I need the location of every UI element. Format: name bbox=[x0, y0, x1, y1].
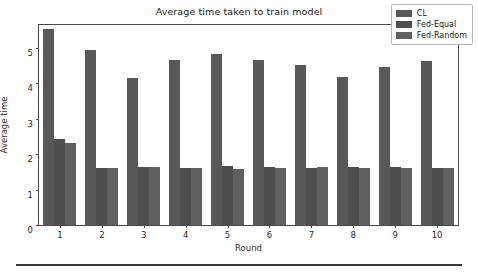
bar-group bbox=[253, 25, 286, 225]
y-tick-mark bbox=[36, 119, 39, 120]
legend-label: Fed-Random bbox=[417, 31, 467, 40]
bar bbox=[222, 166, 233, 225]
bar bbox=[348, 167, 359, 225]
bar bbox=[390, 167, 401, 225]
y-tick-mark bbox=[36, 190, 39, 191]
legend-label: CL bbox=[417, 9, 427, 18]
bar bbox=[264, 167, 275, 225]
legend-item: Fed-Random bbox=[396, 30, 467, 41]
y-tick-label: 1 bbox=[28, 190, 39, 200]
legend-swatch-icon bbox=[396, 21, 412, 28]
bar bbox=[127, 78, 138, 225]
legend-swatch-icon bbox=[396, 32, 412, 39]
y-tick-mark bbox=[36, 154, 39, 155]
bar bbox=[432, 168, 443, 225]
bar bbox=[359, 168, 370, 225]
bar bbox=[191, 168, 202, 225]
legend-item: CL bbox=[396, 8, 467, 19]
plot-area bbox=[39, 25, 458, 225]
bar bbox=[401, 168, 412, 225]
bottom-divider bbox=[16, 264, 462, 266]
y-tick-mark bbox=[36, 225, 39, 226]
bar bbox=[337, 77, 348, 225]
x-tick-mark bbox=[437, 225, 438, 228]
bar bbox=[169, 60, 180, 225]
x-tick-mark bbox=[60, 225, 61, 228]
legend-item: Fed-Equal bbox=[396, 19, 467, 30]
x-tick-mark bbox=[269, 225, 270, 228]
bar bbox=[43, 29, 54, 225]
bar bbox=[306, 168, 317, 225]
y-tick-label: 3 bbox=[28, 119, 39, 129]
bar bbox=[317, 167, 328, 225]
bar-group bbox=[211, 25, 244, 225]
x-tick-mark bbox=[144, 225, 145, 228]
x-tick-mark bbox=[395, 225, 396, 228]
y-tick-label: 4 bbox=[28, 83, 39, 93]
bar bbox=[54, 139, 65, 225]
bar-group bbox=[337, 25, 370, 225]
bar bbox=[233, 169, 244, 225]
bar bbox=[443, 168, 454, 225]
bar-group bbox=[43, 25, 76, 225]
bar-group bbox=[85, 25, 118, 225]
y-axis-label: Average time bbox=[0, 97, 9, 154]
bar bbox=[138, 167, 149, 225]
y-tick-mark bbox=[36, 83, 39, 84]
x-axis-label: Round bbox=[38, 243, 459, 253]
plot-axes: 12345678910012345 bbox=[38, 24, 459, 226]
x-tick-mark bbox=[102, 225, 103, 228]
y-tick-label: 0 bbox=[28, 225, 39, 235]
x-tick-mark bbox=[311, 225, 312, 228]
x-tick-mark bbox=[186, 225, 187, 228]
x-tick-mark bbox=[228, 225, 229, 228]
bar bbox=[421, 61, 432, 225]
y-tick-label: 2 bbox=[28, 154, 39, 164]
bar bbox=[275, 168, 286, 225]
y-tick-label: 5 bbox=[28, 48, 39, 58]
bar bbox=[295, 65, 306, 225]
bar bbox=[211, 54, 222, 225]
y-tick-mark bbox=[36, 48, 39, 49]
bar bbox=[65, 143, 76, 225]
chart-legend: CLFed-EqualFed-Random bbox=[391, 4, 473, 45]
bar bbox=[379, 67, 390, 225]
bar bbox=[107, 168, 118, 225]
bar-group bbox=[127, 25, 160, 225]
bar-group bbox=[421, 25, 454, 225]
legend-label: Fed-Equal bbox=[417, 20, 456, 29]
bar bbox=[96, 168, 107, 225]
bar-group bbox=[295, 25, 328, 225]
bar-group bbox=[379, 25, 412, 225]
bar bbox=[253, 60, 264, 225]
bar bbox=[149, 167, 160, 225]
bar-group bbox=[169, 25, 202, 225]
bar bbox=[180, 168, 191, 225]
legend-swatch-icon bbox=[396, 10, 412, 17]
x-tick-mark bbox=[353, 225, 354, 228]
chart-figure: Average time taken to train model Averag… bbox=[0, 0, 478, 276]
bar bbox=[85, 50, 96, 225]
